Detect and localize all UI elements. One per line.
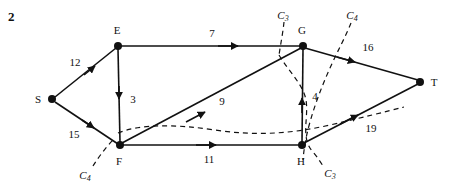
edge-arrow-h-t (340, 115, 358, 124)
edge-g-t (305, 48, 418, 80)
node-label-g: G (298, 25, 306, 36)
node-f[interactable] (116, 141, 124, 149)
edge-label-f-g: 9 (219, 96, 225, 107)
cut-label-c4-bottom: C4 (79, 170, 90, 181)
cut-line-c4-sweep (118, 107, 404, 133)
node-s[interactable] (48, 95, 56, 103)
cut-label-c3-bottom-sub: 3 (332, 172, 336, 181)
cut-label-c4-bottom-sub: 4 (87, 174, 91, 183)
cut-label-c3-top-sub: 3 (285, 14, 289, 23)
edge-label-f-h: 11 (204, 154, 215, 165)
node-t[interactable] (416, 78, 424, 86)
node-h[interactable] (298, 141, 306, 149)
edge-h-t (304, 84, 418, 143)
edge-arrow-s-f (82, 120, 94, 128)
edge-h-g (302, 49, 303, 142)
figure-container: 2 (0, 0, 458, 190)
edge-label-e-g: 7 (209, 28, 215, 39)
cut-label-c4-top: C4 (346, 10, 357, 21)
edge-label-g-t: 16 (363, 42, 374, 53)
edge-label-e-f: 3 (130, 94, 136, 105)
edge-label-s-e: 12 (70, 57, 81, 68)
node-g[interactable] (299, 42, 307, 50)
network-graph (0, 0, 458, 190)
node-label-e: E (114, 25, 121, 36)
node-label-h: H (297, 156, 305, 167)
edge-s-e (55, 48, 116, 97)
edge-label-h-g: 4 (312, 91, 318, 102)
edge-arrow-f-g (186, 112, 205, 122)
cut-label-c4-top-sub: 4 (354, 14, 358, 23)
node-label-t: T (431, 77, 438, 88)
edge-f-g (122, 48, 301, 143)
edge-arrow-g-t (337, 57, 355, 62)
edges-layer (55, 46, 418, 145)
node-label-f: F (116, 156, 122, 167)
edge-label-s-f: 15 (69, 129, 80, 140)
cut-line-c3-upper (279, 22, 284, 55)
cut-label-c3-top: C3 (277, 10, 288, 21)
cut-label-c3-bottom: C3 (324, 168, 335, 179)
node-e[interactable] (114, 42, 122, 50)
node-label-s: S (35, 94, 41, 105)
cut-line-c4-lower (93, 138, 115, 166)
edge-label-h-t: 19 (366, 123, 377, 134)
cut-lines-layer (93, 22, 404, 168)
edge-arrow-s-e (84, 66, 95, 75)
